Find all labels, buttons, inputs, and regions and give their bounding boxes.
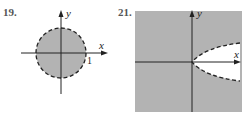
- x-axis-label: x: [98, 39, 104, 51]
- y-axis-label: y: [196, 7, 202, 19]
- y-axis-arrow-icon: [59, 10, 64, 17]
- tick-label-1: 1: [87, 55, 92, 66]
- y-axis-label: y: [65, 7, 71, 19]
- graphs: y x 1 y x: [0, 0, 242, 116]
- graph-19: y x 1: [21, 7, 108, 94]
- x-axis-label: x: [233, 48, 239, 60]
- graph-21: y x: [135, 7, 242, 112]
- x-axis-arrow-icon: [101, 51, 108, 56]
